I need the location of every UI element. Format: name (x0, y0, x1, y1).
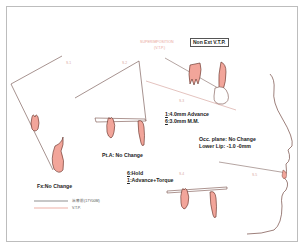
legend-label-vtp: V.T.P. (72, 206, 81, 210)
s1-diagram (11, 56, 64, 172)
note-s5-line1: Occ. plane: No Change (199, 136, 256, 142)
superimposition-label: SUPERIMPOSITION (140, 40, 174, 44)
note-s4-line2: 1:Advance+Torque (127, 177, 173, 183)
note-s4-line1: 6:Hold (127, 170, 143, 176)
note-s1: Fx:No Change (37, 183, 72, 189)
legend-label-pre: 治療前(17Y00M) (72, 199, 100, 203)
note-s2: Pt.A: No Change (102, 152, 143, 158)
s3-diagram (146, 58, 236, 110)
section-label-s4: S.4 (179, 172, 184, 176)
superimposition-sub: (V.T.P.) (154, 46, 165, 50)
section-label-s1: S.1 (66, 61, 71, 65)
mode-box: Non Ext V.T.P. (190, 38, 229, 47)
s2-diagram (75, 61, 146, 146)
s5-profile (219, 74, 292, 234)
section-label-s3: S.3 (179, 99, 184, 103)
note-s3-line2: 6:3.0mm M.M. (165, 118, 199, 124)
cephalometric-drawing (0, 0, 305, 246)
section-label-s2: S.2 (122, 61, 127, 65)
note-s3-line1: 1:4.0mm Advance (165, 111, 209, 117)
note-s5-line2: Lower Lip: -1.0 -0mm (199, 143, 251, 149)
section-label-s5: S.5 (252, 173, 257, 177)
s4-diagram (167, 187, 227, 218)
